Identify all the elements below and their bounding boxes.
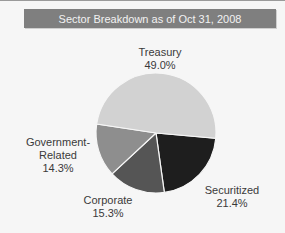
label-treasury: Treasury 49.0% (130, 46, 190, 72)
label-corporate-pct: 15.3% (76, 207, 140, 220)
label-corporate: Corporate 15.3% (76, 194, 140, 220)
label-government-pct: 14.3% (18, 162, 98, 175)
label-government-related: Government- Related 14.3% (18, 136, 98, 175)
label-corporate-name: Corporate (76, 194, 140, 207)
label-government-name-2: Related (18, 149, 98, 162)
label-securitized-name: Securitized (192, 184, 272, 197)
label-securitized-pct: 21.4% (192, 197, 272, 210)
pie-slices (96, 73, 216, 193)
label-securitized: Securitized 21.4% (192, 184, 272, 210)
label-government-name-1: Government- (18, 136, 98, 149)
label-treasury-name: Treasury (130, 46, 190, 59)
label-treasury-pct: 49.0% (130, 59, 190, 72)
